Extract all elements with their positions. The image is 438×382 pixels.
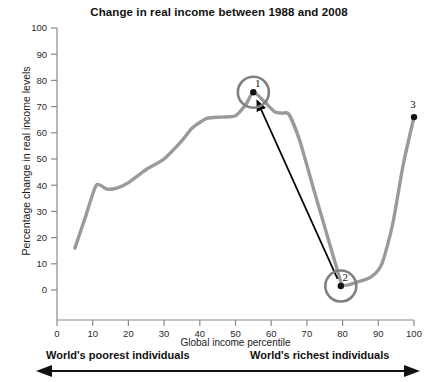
y-tick-label: 40 <box>36 180 47 191</box>
y-axis-ticks: 0102030405060708090100 <box>31 22 57 295</box>
double-headed-range-arrow <box>36 365 420 377</box>
chart-figure: Change in real income between 1988 and 2… <box>0 0 438 382</box>
marker-label-2: 2 <box>343 271 349 283</box>
income-curve <box>75 92 414 285</box>
y-tick-label: 20 <box>36 232 47 243</box>
y-tick-label: 90 <box>36 49 47 60</box>
x-axis-label: Global income percentile <box>57 337 414 348</box>
annotation-richest: World's richest individuals <box>250 349 389 361</box>
plot-area: 0102030405060708090100 01020304050607080… <box>0 0 438 382</box>
data-markers: 123 <box>238 77 417 302</box>
y-tick-label: 80 <box>36 75 47 86</box>
marker-dot <box>411 114 417 120</box>
y-tick-label: 30 <box>36 206 47 217</box>
callout-arrow-line <box>257 101 337 278</box>
y-tick-label: 50 <box>36 153 47 164</box>
y-tick-label: 100 <box>31 22 47 33</box>
y-tick-label: 60 <box>36 127 47 138</box>
marker-label-3: 3 <box>410 98 416 110</box>
annotation-poorest: World's poorest individuals <box>46 349 190 361</box>
y-tick-label: 70 <box>36 101 47 112</box>
marker-dot <box>250 89 256 95</box>
marker-dot <box>338 283 344 289</box>
marker-label-1: 1 <box>255 77 261 89</box>
y-tick-label: 10 <box>36 258 47 269</box>
axes: 0102030405060708090100 01020304050607080… <box>31 22 422 339</box>
callout-arrow <box>257 101 337 278</box>
y-tick-label: 0 <box>42 284 47 295</box>
